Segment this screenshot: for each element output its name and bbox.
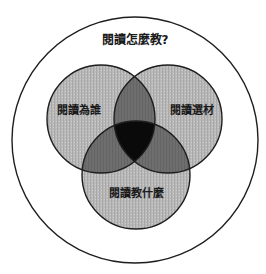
set-material-label: 閱讀選材 bbox=[170, 103, 214, 117]
venn-diagram: 閱讀怎麼教? 閱讀為誰 閱讀選材 閱讀教什麼 bbox=[0, 0, 266, 274]
venn-svg: 閱讀怎麼教? 閱讀為誰 閱讀選材 閱讀教什麼 bbox=[0, 0, 266, 274]
set-what-label: 閱讀教什麼 bbox=[109, 186, 164, 200]
set-who-label: 閱讀為誰 bbox=[57, 103, 101, 117]
diagram-title: 閱讀怎麼教? bbox=[102, 32, 169, 47]
